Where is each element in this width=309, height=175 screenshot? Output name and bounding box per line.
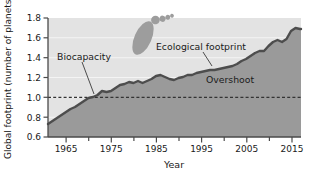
y-tick-label: 1.0 <box>27 93 42 103</box>
x-tick-label: 2005 <box>235 144 258 154</box>
y-tick-label: 1.4 <box>27 53 42 63</box>
y-tick-labels: 1.8 1.6 1.4 1.2 1.0 0.8 0.6 <box>27 13 42 142</box>
y-tick-label: 1.6 <box>27 33 42 43</box>
biocapacity-annotation: Biocapacity <box>57 51 111 62</box>
figure-container: 1.8 1.6 1.4 1.2 1.0 0.8 0.6 1965 1975 19… <box>0 0 309 175</box>
overshoot-annotation: Overshoot <box>206 74 254 85</box>
ecological-footprint-annotation: Ecological footprint <box>156 41 246 52</box>
y-tick-label: 0.6 <box>27 132 42 142</box>
ecological-footprint-chart: 1.8 1.6 1.4 1.2 1.0 0.8 0.6 1965 1975 19… <box>0 0 309 175</box>
x-tick-labels: 1965 1975 1985 1995 2005 2015 <box>55 144 304 154</box>
x-tick-label: 1995 <box>190 144 213 154</box>
x-tick-label: 2015 <box>281 144 304 154</box>
y-axis-ticks <box>44 18 49 137</box>
x-tick-label: 1975 <box>100 144 123 154</box>
y-tick-label: 0.8 <box>27 113 42 123</box>
x-tick-label: 1985 <box>145 144 168 154</box>
x-tick-label: 1965 <box>55 144 78 154</box>
x-axis-title: Year <box>163 159 184 170</box>
y-tick-label: 1.2 <box>27 73 41 83</box>
x-axis-ticks <box>66 137 292 143</box>
y-axis-title: Global footprint (number of planets) <box>3 0 13 159</box>
y-tick-label: 1.8 <box>27 13 42 23</box>
